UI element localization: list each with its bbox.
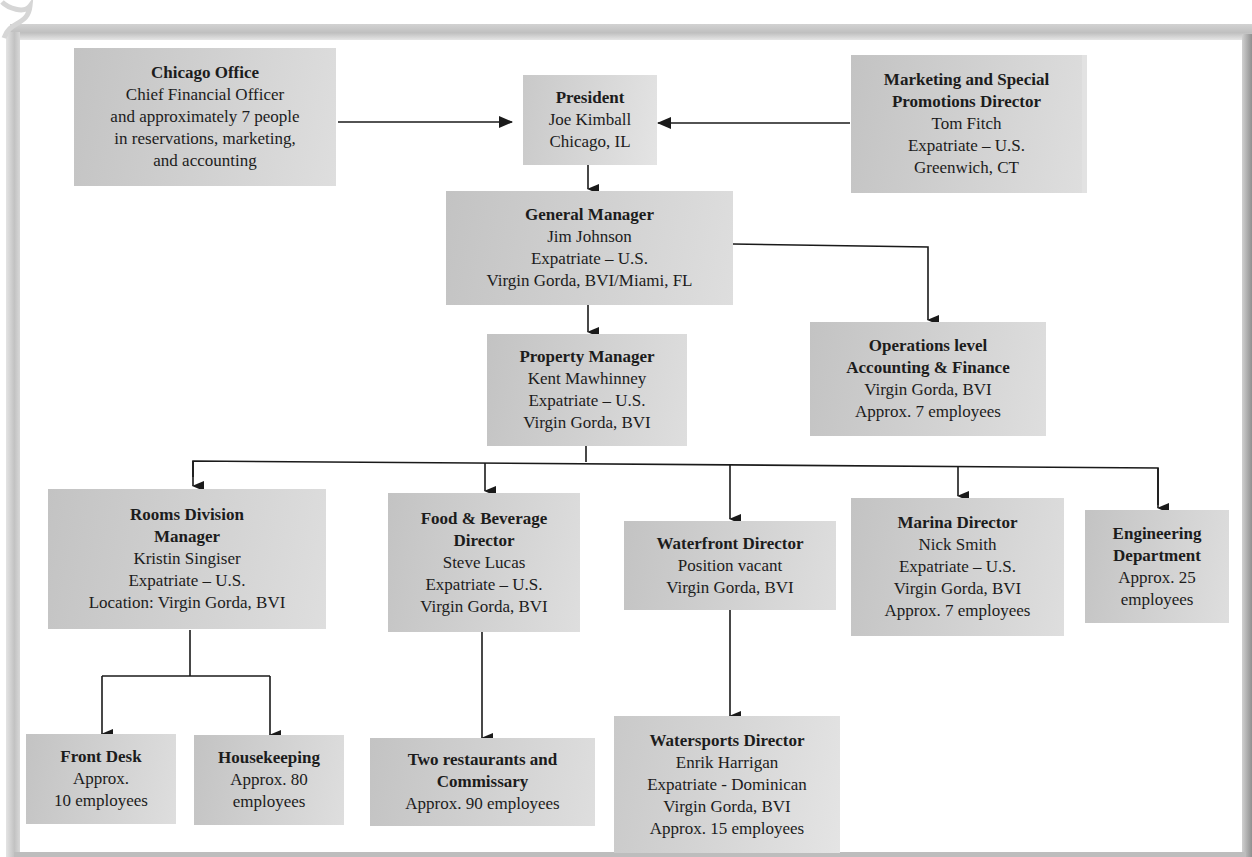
node-line: Approx. [73, 768, 129, 790]
node-rooms-division-manager: Rooms Division Manager Kristin Singiser … [48, 489, 326, 629]
node-line: Nick Smith [919, 534, 997, 556]
node-marketing-director: Marketing and Special Promotions Directo… [851, 55, 1087, 193]
node-title: Operations level [869, 335, 988, 357]
node-engineering-department: Engineering Department Approx. 25 employ… [1085, 510, 1229, 623]
node-title: President [556, 87, 625, 109]
node-line: Chief Financial Officer [126, 84, 284, 106]
node-general-manager: General Manager Jim Johnson Expatriate –… [446, 191, 733, 305]
node-line: Virgin Gorda, BVI [864, 379, 992, 401]
node-title: General Manager [525, 204, 654, 226]
page-frame-top [10, 24, 1252, 40]
node-line: employees [233, 791, 306, 813]
node-line: in reservations, marketing, [114, 128, 295, 150]
node-line: Approx. 7 employees [855, 401, 1001, 423]
node-line: Position vacant [678, 555, 782, 577]
node-line: Expatriate – U.S. [908, 135, 1025, 157]
node-line: and approximately 7 people [110, 106, 299, 128]
node-line: Virgin Gorda, BVI [666, 577, 794, 599]
node-president: President Joe Kimball Chicago, IL [523, 75, 657, 165]
node-line: Expatriate - Dominican [647, 774, 807, 796]
node-line: employees [1121, 589, 1194, 611]
node-line: Joe Kimball [549, 109, 632, 131]
node-title: Commissary [437, 771, 529, 793]
node-title: Watersports Director [650, 730, 805, 752]
node-line: Virgin Gorda, BVI [894, 578, 1022, 600]
node-restaurants-commissary: Two restaurants and Commissary Approx. 9… [370, 738, 595, 826]
page-frame-right [1242, 34, 1252, 857]
node-title: Waterfront Director [656, 533, 803, 555]
node-line: Virgin Gorda, BVI [523, 412, 651, 434]
node-line: Enrik Harrigan [676, 752, 778, 774]
node-operations-accounting: Operations level Accounting & Finance Vi… [810, 322, 1046, 436]
node-marina-director: Marina Director Nick Smith Expatriate – … [851, 498, 1064, 636]
node-title: Engineering [1113, 523, 1202, 545]
node-chicago-office: Chicago Office Chief Financial Officer a… [74, 48, 336, 186]
node-line: Approx. 80 [230, 769, 307, 791]
node-housekeeping: Housekeeping Approx. 80 employees [194, 735, 344, 825]
node-title: Rooms Division [130, 504, 244, 526]
node-line: Virgin Gorda, BVI [420, 596, 548, 618]
node-line: Jim Johnson [547, 226, 632, 248]
node-property-manager: Property Manager Kent Mawhinney Expatria… [487, 334, 687, 446]
node-front-desk: Front Desk Approx. 10 employees [26, 734, 176, 824]
node-line: Expatriate – U.S. [425, 574, 542, 596]
node-line: Expatriate – U.S. [128, 570, 245, 592]
node-waterfront-director: Waterfront Director Position vacant Virg… [624, 521, 836, 610]
node-line: Virgin Gorda, BVI/Miami, FL [487, 270, 693, 292]
node-line: Tom Fitch [931, 113, 1001, 135]
node-line: Steve Lucas [443, 552, 526, 574]
node-title: Manager [154, 526, 220, 548]
node-title: Accounting & Finance [846, 357, 1009, 379]
node-line: Location: Virgin Gorda, BVI [89, 592, 286, 614]
node-title: Director [453, 530, 514, 552]
node-line: Chicago, IL [549, 131, 630, 153]
node-title: Property Manager [519, 346, 654, 368]
node-title: Front Desk [60, 746, 141, 768]
decorative-swirl-icon [0, 0, 36, 40]
node-title: Marketing and Special [884, 69, 1049, 91]
node-line: Approx. 25 [1118, 567, 1195, 589]
node-line: Expatriate – U.S. [899, 556, 1016, 578]
node-line: Expatriate – U.S. [531, 248, 648, 270]
page-frame-left [6, 32, 20, 857]
node-line: Greenwich, CT [914, 157, 1019, 179]
node-watersports-director: Watersports Director Enrik Harrigan Expa… [614, 716, 840, 853]
node-line: Virgin Gorda, BVI [663, 796, 791, 818]
node-title: Department [1113, 545, 1201, 567]
node-line: Approx. 7 employees [885, 600, 1031, 622]
node-title: Marina Director [897, 512, 1017, 534]
node-line: Kent Mawhinney [528, 368, 647, 390]
node-line: 10 employees [54, 790, 148, 812]
node-line: Kristin Singiser [133, 548, 240, 570]
node-line: Approx. 90 employees [405, 793, 559, 815]
node-title: Two restaurants and [408, 749, 558, 771]
node-food-beverage-director: Food & Beverage Director Steve Lucas Exp… [388, 493, 580, 632]
node-title: Housekeeping [218, 747, 320, 769]
node-title: Food & Beverage [421, 508, 548, 530]
node-line: Expatriate – U.S. [528, 390, 645, 412]
node-title: Promotions Director [892, 91, 1041, 113]
node-line: Approx. 15 employees [650, 818, 804, 840]
node-line: and accounting [153, 150, 256, 172]
node-title: Chicago Office [151, 62, 259, 84]
